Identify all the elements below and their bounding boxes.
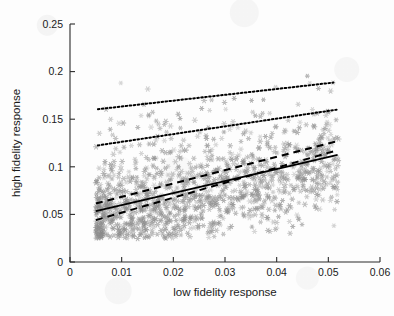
y-tick-label: 0.05 xyxy=(43,208,64,220)
y-axis-title: high fidelity response xyxy=(10,89,22,197)
y-tick-label: 0.2 xyxy=(48,65,63,77)
x-tick-label: 0 xyxy=(67,266,73,278)
y-tick-label: 0 xyxy=(57,256,63,268)
x-tick-label: 0.03 xyxy=(215,266,236,278)
x-tick-label: 0.06 xyxy=(370,266,391,278)
y-tick-label: 0.25 xyxy=(43,18,64,30)
x-tick-label: 0.01 xyxy=(111,266,132,278)
y-tick-label: 0.15 xyxy=(43,113,64,125)
x-tick-label: 0.05 xyxy=(318,266,339,278)
x-axis-title: low fidelity response xyxy=(173,286,277,298)
scatter-plot-figure: 00.010.020.030.040.050.0600.050.10.150.2… xyxy=(0,0,394,316)
y-tick-label: 0.1 xyxy=(48,161,63,173)
scatter-points xyxy=(93,74,341,240)
axis-ticks: 00.010.020.030.040.050.0600.050.10.150.2… xyxy=(43,18,391,278)
plot-canvas: 00.010.020.030.040.050.0600.050.10.150.2… xyxy=(0,0,394,316)
x-tick-label: 0.04 xyxy=(266,266,287,278)
x-tick-label: 0.02 xyxy=(163,266,184,278)
